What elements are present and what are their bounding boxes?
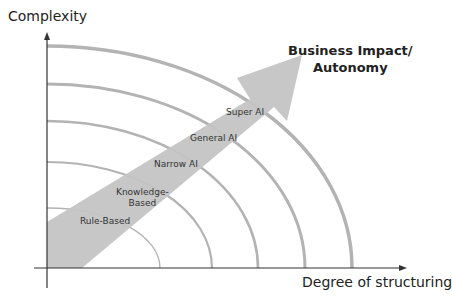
- y-axis-title: Complexity: [8, 8, 87, 24]
- stage-label-super-ai: Super AI: [226, 107, 264, 118]
- stage-label-knowledge-line2: Based: [116, 198, 169, 209]
- stage-label-knowledge-line1: Knowledge-: [116, 187, 169, 198]
- stage-label-rule-based: Rule-Based: [80, 216, 130, 227]
- stage-label-general-ai: General AI: [190, 133, 237, 144]
- arrow-label: Business Impact/ Autonomy: [288, 42, 413, 76]
- x-axis-title: Degree of structuring: [302, 274, 452, 290]
- y-axis-arrowhead-icon: [44, 32, 50, 40]
- arrow-label-line2: Autonomy: [288, 59, 413, 76]
- stage-label-knowledge-based: Knowledge- Based: [116, 187, 169, 209]
- stage-label-narrow-ai: Narrow AI: [154, 159, 198, 170]
- x-axis-arrowhead-icon: [399, 265, 407, 271]
- arrow-label-line1: Business Impact/: [288, 42, 413, 59]
